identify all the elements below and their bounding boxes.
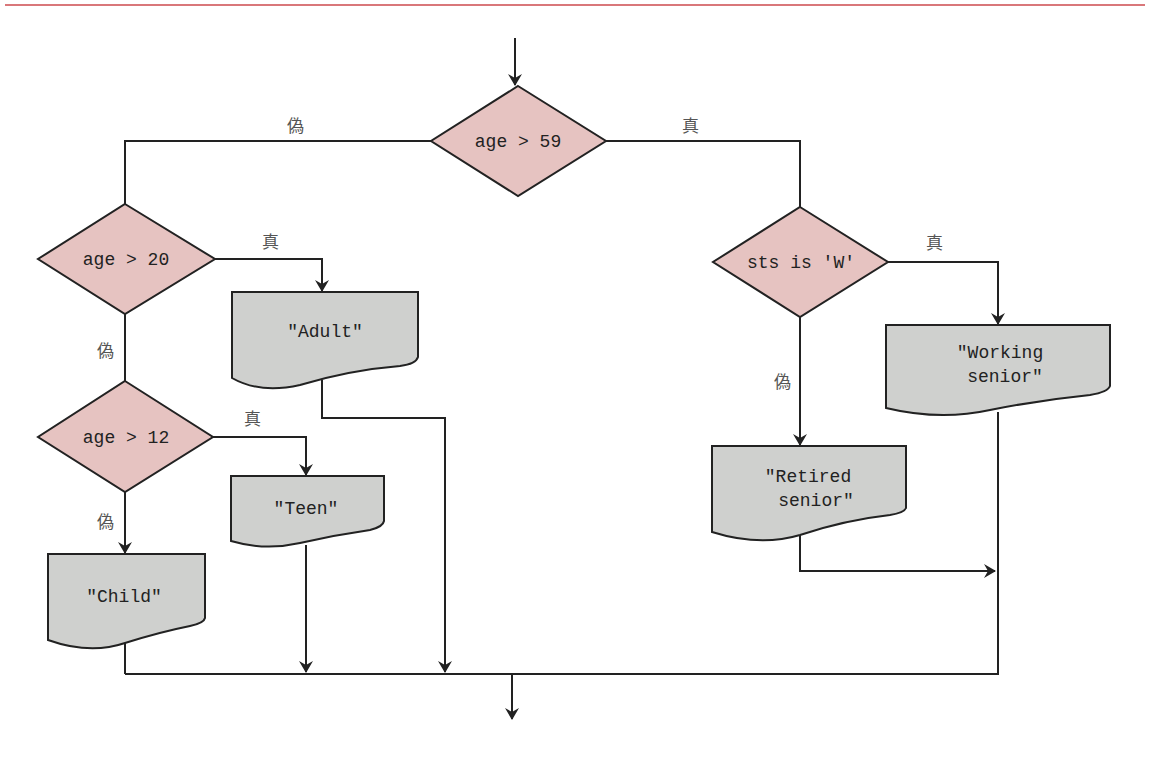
decision-label: sts is 'W'	[747, 253, 855, 273]
edge-d4-true	[888, 262, 998, 324]
output-label-line2: senior"	[967, 367, 1043, 387]
edge-label-false: 偽	[774, 372, 791, 392]
output-label: "Teen"	[274, 499, 339, 519]
edge-label-true: 真	[682, 116, 699, 136]
edge-label-true: 真	[262, 232, 279, 252]
edge-label-false: 偽	[287, 116, 304, 136]
decision-label: age > 12	[83, 428, 169, 448]
edge-label-false: 偽	[97, 512, 114, 532]
decision-age-gt-20: age > 20	[38, 204, 215, 314]
output-working-senior: "Working senior"	[886, 325, 1110, 415]
output-adult: "Adult"	[232, 292, 418, 388]
edge-retired-end	[800, 535, 995, 571]
output-label-line2: senior"	[778, 491, 854, 511]
decision-age-gt-12: age > 12	[38, 381, 213, 492]
edge-d3-true	[213, 437, 306, 475]
output-label: "Adult"	[287, 322, 363, 342]
flowchart: age > 59 偽 真 age > 20 真 "Adult" 偽 age > …	[0, 0, 1152, 766]
edge-d1-false	[125, 141, 431, 204]
edge-label-true: 真	[244, 409, 261, 429]
output-retired-senior: "Retired senior"	[712, 446, 906, 540]
output-label-line1: "Retired	[765, 467, 851, 487]
output-teen: "Teen"	[231, 476, 384, 547]
output-label-line1: "Working	[957, 343, 1043, 363]
decision-sts-is-w: sts is 'W'	[713, 207, 888, 317]
edge-label-false: 偽	[97, 341, 114, 361]
decision-age-gt-59: age > 59	[431, 86, 606, 196]
decision-label: age > 59	[475, 132, 561, 152]
decision-label: age > 20	[83, 250, 169, 270]
edge-d1-true	[606, 141, 800, 207]
edge-d2-true	[215, 259, 322, 291]
output-label: "Child"	[86, 587, 162, 607]
output-child: "Child"	[48, 554, 205, 648]
edge-label-true: 真	[926, 233, 943, 253]
